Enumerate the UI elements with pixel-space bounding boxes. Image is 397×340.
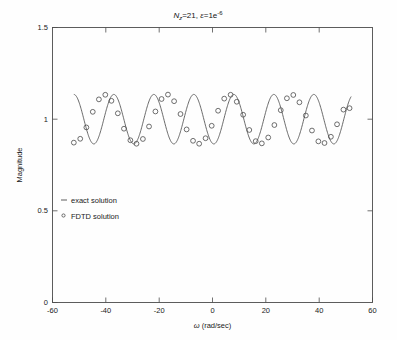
data-point-marker: [222, 96, 227, 101]
y-tick-marks: [53, 28, 373, 303]
plot-frame: [53, 28, 373, 303]
x-tick-labels: -60 -40 -20 0 20 40 60: [47, 306, 377, 315]
data-point-marker: [316, 139, 321, 144]
x-tick-marks: [53, 28, 373, 303]
data-point-marker: [341, 107, 346, 112]
data-point-marker: [184, 127, 189, 132]
data-point-marker: [172, 99, 177, 104]
data-point-marker: [266, 135, 271, 140]
data-point-marker: [347, 106, 352, 111]
data-point-marker: [209, 123, 214, 128]
data-point-marker: [159, 97, 164, 102]
data-point-marker: [322, 141, 327, 146]
data-point-marker: [122, 126, 127, 131]
x-axis-label-unit: (rad/sec): [202, 321, 232, 330]
data-point-marker: [216, 108, 221, 113]
data-point-marker: [166, 92, 171, 97]
legend-entry-fdtd: FDTD solution: [62, 212, 119, 221]
y-tick-label: 0.5: [38, 206, 48, 215]
data-point-marker: [272, 123, 277, 128]
legend-entry-exact: exact solution: [61, 196, 117, 205]
y-tick-label: 1.5: [38, 23, 48, 32]
svg-text:Nz=21, ε=1e-6: Nz=21, ε=1e-6: [173, 10, 223, 21]
y-tick-label: 0: [44, 298, 48, 307]
figure-canvas: Nz=21, ε=1e-6: [0, 0, 397, 340]
y-axis-label: Magnitude: [15, 147, 24, 182]
legend: exact solution FDTD solution: [61, 196, 119, 221]
x-axis-label: ω (rad/sec): [194, 321, 232, 330]
x-tick-label: 20: [262, 306, 270, 315]
data-point-marker: [90, 109, 95, 114]
chart-title: Nz=21, ε=1e-6: [173, 10, 223, 21]
data-point-marker: [78, 136, 83, 141]
title-epsilon-value: =1e: [204, 11, 218, 20]
x-tick-label: 60: [368, 306, 376, 315]
x-tick-label: 40: [315, 306, 323, 315]
data-point-marker: [103, 92, 108, 97]
series-exact-solution: [74, 94, 351, 143]
data-point-marker: [203, 136, 208, 141]
circle-marker-icon: [62, 214, 65, 217]
data-point-marker: [109, 98, 114, 103]
y-tick-label: 1: [44, 115, 48, 124]
data-point-marker: [197, 141, 202, 146]
x-tick-label: -20: [154, 306, 165, 315]
legend-label: FDTD solution: [71, 212, 119, 221]
title-epsilon-exponent: -6: [217, 10, 223, 16]
data-point-marker: [153, 109, 158, 114]
data-point-marker: [247, 128, 252, 133]
data-point-marker: [297, 100, 302, 105]
data-point-marker: [147, 124, 152, 129]
data-point-marker: [115, 111, 120, 116]
x-tick-label: 0: [210, 306, 214, 315]
legend-label: exact solution: [71, 196, 117, 205]
data-point-marker: [97, 97, 102, 102]
data-point-marker: [178, 112, 183, 117]
x-tick-label: -40: [100, 306, 111, 315]
data-point-marker: [71, 140, 76, 145]
data-point-marker: [191, 138, 196, 143]
x-tick-label: -60: [47, 306, 58, 315]
data-point-marker: [310, 128, 315, 133]
data-point-marker: [141, 137, 146, 142]
data-point-marker: [285, 96, 290, 101]
y-tick-labels: 0 0.5 1 1.5: [38, 23, 48, 307]
title-n-value: =21,: [182, 11, 198, 20]
data-point-marker: [335, 122, 340, 127]
magnitude-vs-omega-chart: Nz=21, ε=1e-6: [0, 0, 397, 340]
data-point-marker: [303, 113, 308, 118]
data-point-marker: [259, 141, 264, 146]
data-point-marker: [291, 93, 296, 98]
series-fdtd-solution: [71, 92, 352, 146]
